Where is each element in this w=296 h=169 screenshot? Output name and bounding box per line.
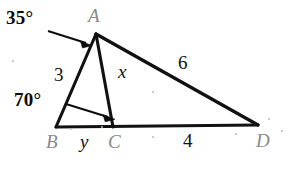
side-label-bc: y: [80, 132, 88, 151]
vertex-label-c: C: [108, 132, 121, 151]
vertex-label-b: B: [46, 132, 58, 151]
side-label-ad: 6: [178, 53, 188, 72]
angle-b-arrow: [66, 104, 115, 122]
geometry-figure: A B C D 3 x 6 y 4 35° 70°: [0, 0, 296, 169]
scan-speck: [101, 126, 103, 128]
scan-speck: [12, 60, 14, 62]
angle-label-a: 35°: [6, 8, 33, 27]
vertex-label-d: D: [256, 131, 270, 150]
scan-speck: [235, 133, 237, 135]
segment-bd-baseline: [56, 125, 258, 127]
vertex-label-a: A: [88, 6, 100, 25]
angle-label-b: 70°: [14, 90, 41, 109]
angle-a-arrow: [48, 31, 92, 48]
figure-canvas: [0, 0, 296, 169]
side-label-ac: x: [118, 62, 126, 81]
diagram-linework: [56, 34, 258, 127]
side-label-cd: 4: [183, 131, 193, 150]
side-label-ab: 3: [54, 65, 64, 84]
segment-ac: [96, 34, 113, 127]
scan-speck: [152, 91, 154, 93]
